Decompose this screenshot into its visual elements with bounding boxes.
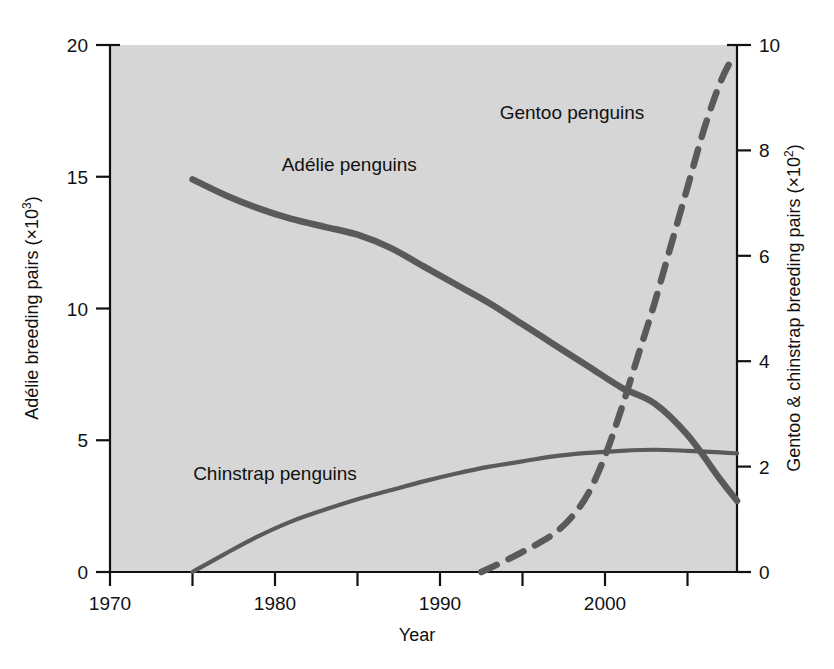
y-axis-left-tick-label: 0 [77,562,88,583]
series-annotation-ad-lie-penguins: Adélie penguins [282,154,417,175]
x-axis-ticks [110,572,688,586]
x-axis-tick-label: 1970 [89,593,131,614]
y-axis-right-tick-label: 2 [759,457,770,478]
y-axis-left-tick-labels: 05101520 [67,35,88,583]
y-axis-right-tick-label: 10 [759,35,780,56]
y-axis-left-tick-label: 15 [67,167,88,188]
y-axis-right-tick-label: 6 [759,246,770,267]
figure-container: 1970198019902000 05101520 0246810 Adélie… [0,0,834,669]
x-axis-tick-label: 1980 [254,593,296,614]
y-axis-right-tick-labels: 0246810 [759,35,780,583]
y-axis-left-tick-label: 20 [67,35,88,56]
y-axis-left-tick-label: 10 [67,299,88,320]
x-axis-tick-label: 1990 [419,593,461,614]
y-axis-right-tick-label: 8 [759,140,770,161]
y-axis-left-ticks [96,45,110,572]
y-axis-right-title: Gentoo & chinstrap breeding pairs (×102) [782,144,804,471]
x-axis-title: Year [399,625,435,645]
y-axis-right-ticks [737,45,751,572]
y-axis-right-tick-label: 0 [759,562,770,583]
penguin-population-line-chart: 1970198019902000 05101520 0246810 Adélie… [0,0,834,669]
y-axis-right-tick-label: 4 [759,351,770,372]
plot-area-background [110,45,737,572]
series-annotation-gentoo-penguins: Gentoo penguins [500,102,645,123]
y-axis-left-title: Adélie breeding pairs (×103) [20,196,42,419]
x-axis-tick-label: 2000 [584,593,626,614]
series-annotation-chinstrap-penguins: Chinstrap penguins [193,463,357,484]
x-axis-tick-labels: 1970198019902000 [89,593,626,614]
y-axis-left-tick-label: 5 [77,430,88,451]
